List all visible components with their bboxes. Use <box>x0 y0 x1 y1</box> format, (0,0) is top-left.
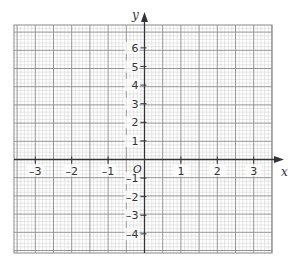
y-axis-ticks: 654321–1–2–3–4 <box>125 42 147 241</box>
y-tick-label: –4 <box>126 228 139 241</box>
y-tick-label: 1 <box>132 135 139 148</box>
x-tick-label: –3 <box>29 165 42 178</box>
y-tick-label: 5 <box>132 61 139 74</box>
grid-border <box>14 25 272 253</box>
y-tick-label: –3 <box>126 209 139 222</box>
origin-label: O <box>133 163 142 176</box>
x-tick-label: –2 <box>65 165 78 178</box>
x-axis-label: x <box>281 165 288 179</box>
y-tick-label: –2 <box>126 191 139 204</box>
y-axis-arrow-icon <box>141 12 148 22</box>
y-tick-label: 3 <box>132 98 139 111</box>
coordinate-grid: –3–2–1123 654321–1–2–3–4 x y O <box>0 0 292 263</box>
y-tick-label: 2 <box>132 116 139 129</box>
y-tick-label: 4 <box>132 79 139 92</box>
major-grid-lines <box>14 25 272 253</box>
x-tick-label: 3 <box>250 165 257 178</box>
minor-grid-lines <box>14 25 272 253</box>
x-tick-label: 1 <box>177 165 184 178</box>
y-axis-label: y <box>131 8 139 22</box>
x-tick-label: –1 <box>102 165 115 178</box>
x-axis-arrow-icon <box>274 156 284 163</box>
x-tick-label: 2 <box>214 165 221 178</box>
y-tick-label: 6 <box>132 42 139 55</box>
axes <box>14 12 284 253</box>
